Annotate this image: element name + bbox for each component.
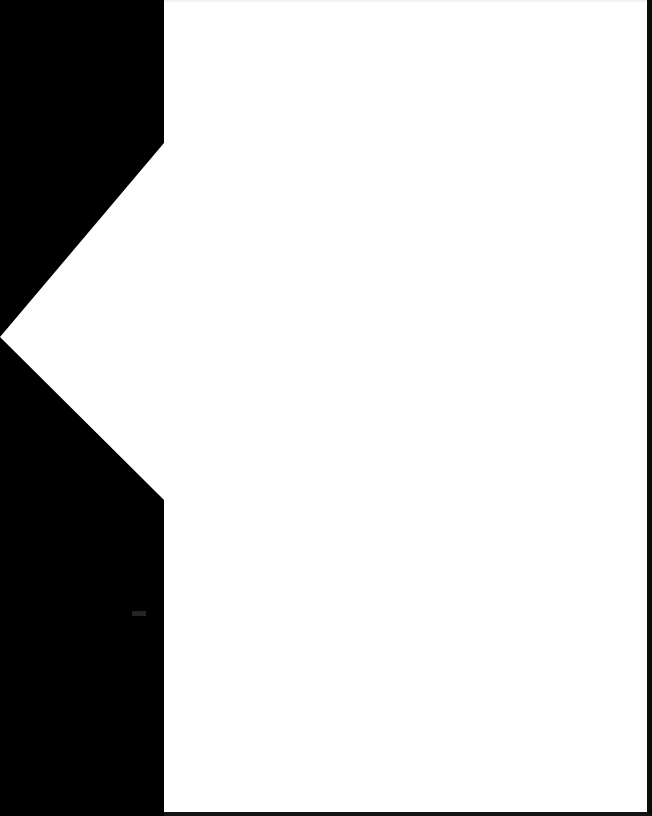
gutter-mark	[132, 611, 146, 616]
content-panel	[164, 0, 652, 816]
panel-top-hairline	[164, 0, 647, 2]
chevron-left-icon[interactable]	[0, 0, 164, 816]
chevron-left-icon-shape	[0, 0, 164, 816]
content-body	[164, 0, 647, 812]
screen-root	[0, 0, 652, 816]
